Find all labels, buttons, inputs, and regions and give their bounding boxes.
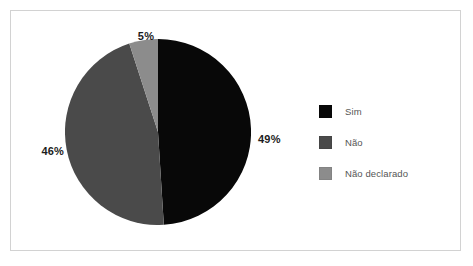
legend-swatch-icon-nao-declarado: [319, 167, 332, 180]
chart-legend: Sim Não Não declarado: [319, 96, 449, 189]
legend-label-sim: Sim: [345, 106, 362, 117]
pie-label-nao-declarado: 5%: [126, 30, 166, 42]
pie-slices: [65, 39, 251, 225]
legend-swatch-icon-sim: [319, 105, 332, 118]
pie-chart-plot-area: [65, 39, 251, 225]
legend-item-nao[interactable]: Não: [319, 127, 449, 158]
pie-svg: [65, 39, 251, 225]
pie-slice-sim[interactable]: [158, 39, 251, 225]
legend-swatch-icon-nao: [319, 136, 332, 149]
legend-label-nao: Não: [345, 137, 363, 148]
pie-label-sim: 49%: [258, 133, 298, 145]
pie-label-nao: 46%: [22, 145, 64, 157]
legend-label-nao-declarado: Não declarado: [345, 168, 408, 179]
pie-chart-figure: 5% 49% 46% Sim Não Não declarado: [0, 0, 473, 266]
legend-item-sim[interactable]: Sim: [319, 96, 449, 127]
legend-item-nao-declarado[interactable]: Não declarado: [319, 158, 449, 189]
